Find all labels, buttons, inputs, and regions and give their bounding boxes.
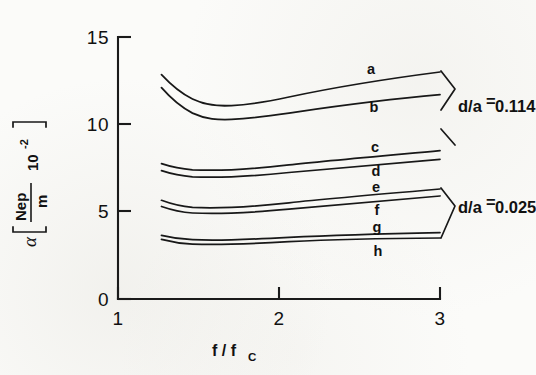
curve-h [162, 238, 441, 244]
brace-lower-connector [441, 129, 455, 145]
group-brace-lower [441, 129, 455, 238]
y-axis-title-numerator: Nep [12, 193, 29, 221]
units-bracket-left [13, 227, 46, 232]
figure-root: 15 10 5 0 1 2 3 f / f C α Nep m 10 -2 [0, 0, 536, 375]
y-tick-label-5: 5 [98, 201, 109, 222]
y-axis-title-denominator: m [33, 195, 50, 208]
curve-d [162, 159, 441, 177]
y-tick-label-0: 0 [98, 289, 109, 310]
x-tick-label-1: 1 [112, 308, 123, 329]
curve-a [162, 72, 441, 106]
curve-label-b: b [370, 99, 379, 115]
group-label-lower: d/a = 0.025 [458, 193, 536, 216]
group-label-lower-value: 0.025 [495, 198, 536, 216]
group-label-lower-ratio: d/a [458, 198, 483, 216]
y-axis-title-alpha: α [19, 236, 40, 247]
x-axis-title: f / f C [212, 342, 256, 363]
x-axis-title-main: f / f [212, 342, 237, 359]
curve-e [162, 189, 441, 208]
curve-c [162, 151, 441, 171]
x-axis-title-subscript: C [248, 351, 256, 363]
y-axis-title-factor: 10 [24, 154, 41, 171]
group-brace-upper [441, 71, 455, 110]
y-tick-label-10: 10 [87, 114, 109, 135]
brace-lower-path [441, 188, 455, 238]
axis-group [118, 37, 440, 299]
curve-label-f: f [375, 202, 380, 218]
group-label-upper-value: 0.114 [495, 97, 536, 115]
curve-label-e: e [372, 179, 380, 195]
brace-upper-path [441, 71, 455, 110]
y-tick-label-15: 15 [87, 27, 109, 48]
group-label-upper-ratio: d/a [458, 97, 483, 115]
attenuation-chart: 15 10 5 0 1 2 3 f / f C α Nep m 10 -2 [0, 0, 536, 375]
curve-label-h: h [374, 243, 383, 259]
curves-group [162, 72, 441, 244]
curve-label-c: c [371, 139, 379, 155]
curve-label-g: g [373, 219, 382, 235]
curve-f [162, 196, 441, 214]
y-axis-title: α Nep m 10 -2 [12, 122, 50, 247]
curve-label-d: d [372, 163, 381, 179]
y-axis-title-exponent: -2 [18, 139, 30, 149]
group-label-upper: d/a = 0.114 [458, 92, 536, 115]
x-tick-label-2: 2 [273, 308, 284, 329]
curve-label-a: a [367, 61, 376, 77]
x-tick-label-3: 3 [434, 308, 445, 329]
units-bracket-right [13, 122, 46, 127]
